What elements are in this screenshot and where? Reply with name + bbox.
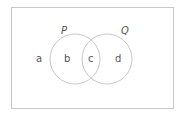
- region-b-label: b: [64, 53, 70, 64]
- region-c-label: c: [88, 53, 94, 64]
- region-d-label: d: [115, 53, 121, 64]
- set-q-label: Q: [121, 25, 129, 36]
- set-p-label: P: [61, 25, 68, 36]
- venn-diagram: P Q a b c d: [0, 0, 180, 114]
- region-a-label: a: [36, 53, 42, 64]
